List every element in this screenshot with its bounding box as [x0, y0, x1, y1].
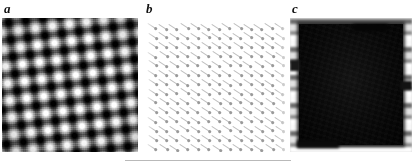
dash-mark: [148, 126, 158, 133]
dash-mark: [147, 23, 157, 30]
dash-mark: [180, 117, 190, 124]
dash-mark: [169, 88, 179, 95]
dash-mark: [148, 97, 158, 104]
dash-mark: [275, 117, 285, 124]
dash-mark: [169, 33, 179, 40]
dash-mark: [243, 135, 253, 142]
dash-mark: [169, 42, 179, 49]
dash-mark: [222, 70, 232, 77]
dash-mark: [254, 79, 264, 86]
dash-mark: [275, 23, 285, 30]
dash-mark: [265, 88, 275, 95]
dash-mark: [233, 70, 243, 77]
dash-mark: [244, 32, 254, 39]
dash-mark: [159, 144, 169, 151]
dash-mark: [201, 107, 211, 114]
dash-mark: [265, 144, 275, 151]
dash-mark: [233, 60, 243, 67]
dash-mark: [232, 144, 242, 151]
dash-mark: [243, 116, 253, 123]
dash-mark: [264, 33, 274, 40]
dash-mark: [169, 126, 179, 133]
dash-mark: [264, 80, 274, 87]
dash-mark: [212, 135, 222, 142]
dash-mark: [148, 79, 158, 86]
dash-mark: [254, 126, 264, 133]
dash-mark: [254, 88, 264, 95]
dash-mark: [264, 107, 274, 114]
dash-mark: [265, 98, 275, 105]
figure-container: a b c: [0, 0, 419, 166]
dash-mark: [233, 135, 243, 142]
dash-mark: [148, 42, 158, 49]
dash-mark: [243, 61, 253, 68]
dash-mark: [191, 97, 201, 104]
dash-mark: [254, 135, 264, 142]
dash-mark: [243, 42, 253, 49]
dash-mark: [233, 33, 243, 40]
dash-mark: [244, 126, 254, 133]
dash-mark: [243, 70, 253, 77]
dash-mark: [200, 116, 210, 123]
dash-mark: [275, 135, 285, 142]
dash-mark: [222, 135, 232, 142]
dash-mark: [169, 51, 179, 58]
dash-mark: [159, 24, 169, 31]
dash-mark: [148, 135, 158, 142]
dash-mark: [276, 107, 285, 114]
dash-mark: [212, 42, 222, 49]
dash-field: [145, 18, 285, 152]
dash-mark: [254, 107, 264, 114]
dash-mark: [159, 51, 169, 58]
dash-mark: [190, 135, 200, 142]
dash-mark: [275, 70, 285, 77]
dash-mark: [244, 144, 254, 151]
dash-mark: [201, 89, 211, 96]
dash-mark: [159, 135, 169, 142]
dash-mark: [211, 79, 221, 86]
dash-mark: [170, 107, 180, 114]
dash-mark: [147, 117, 157, 124]
dash-mark: [243, 107, 253, 114]
dash-mark: [275, 33, 285, 40]
dash-mark: [159, 89, 169, 96]
dash-mark: [275, 79, 285, 86]
panel-label-b: b: [146, 2, 153, 15]
dash-mark: [179, 144, 189, 151]
dash-mark: [275, 52, 285, 59]
dash-mark: [211, 61, 221, 68]
dash-mark: [223, 107, 233, 114]
dash-mark: [158, 61, 168, 68]
dash-mark: [201, 32, 211, 39]
dash-mark: [148, 89, 158, 96]
dash-mark: [147, 70, 157, 77]
dash-mark: [191, 144, 201, 151]
dash-mark: [190, 70, 200, 77]
dash-mark: [232, 52, 242, 59]
dash-mark: [211, 33, 221, 40]
panel-b-dash-array: [145, 18, 285, 152]
dash-mark: [275, 42, 285, 49]
dash-mark: [212, 98, 222, 105]
dash-mark: [169, 70, 179, 77]
dash-mark: [264, 60, 274, 67]
panel-label-c: c: [292, 2, 298, 15]
dash-mark: [222, 88, 232, 95]
dash-mark: [148, 144, 158, 151]
dash-mark: [233, 79, 243, 86]
dash-mark: [158, 79, 168, 86]
dash-mark: [276, 60, 285, 67]
dash-mark: [222, 98, 232, 105]
panel-c-dark-square-image: [290, 18, 412, 152]
dash-mark: [243, 89, 253, 96]
dash-mark: [265, 51, 275, 58]
dash-mark: [148, 107, 158, 114]
dash-mark: [190, 117, 200, 124]
dash-mark: [253, 24, 263, 31]
dash-mark: [254, 98, 264, 105]
dash-mark: [201, 79, 211, 86]
dash-mark: [159, 98, 169, 105]
dash-mark: [190, 60, 200, 67]
dash-mark: [244, 79, 254, 86]
dash-mark: [191, 79, 201, 86]
